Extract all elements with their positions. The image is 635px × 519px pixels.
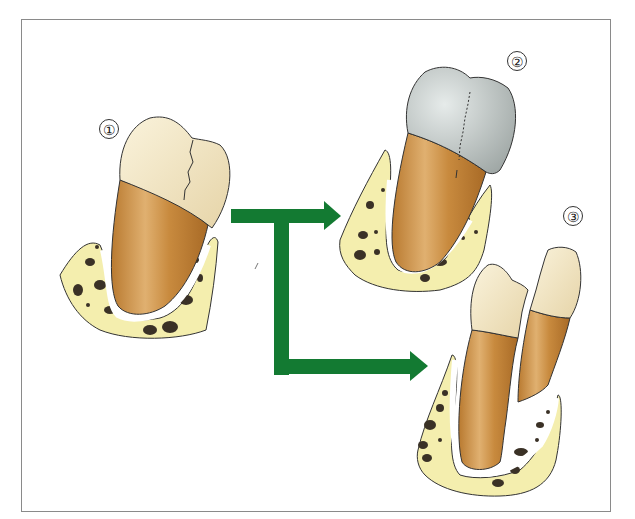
tooth-1-cracked: [60, 117, 230, 338]
arrow-bottom-head: [410, 351, 428, 381]
stray-mark: [255, 263, 258, 269]
label-3: ③: [563, 206, 583, 226]
crown-3-left: [471, 264, 528, 338]
crown-3-right: [530, 247, 581, 318]
label-1: ①: [99, 119, 119, 139]
dental-illustration: [0, 0, 635, 519]
root-3-left: [459, 330, 518, 470]
tooth-2-crowned: [340, 67, 516, 291]
arrow-bottom-shaft: [274, 359, 412, 374]
arrow-vertical-shaft: [274, 215, 289, 375]
root-3-right: [518, 310, 570, 402]
label-2: ②: [507, 51, 527, 71]
arrow-top-head: [324, 201, 341, 230]
